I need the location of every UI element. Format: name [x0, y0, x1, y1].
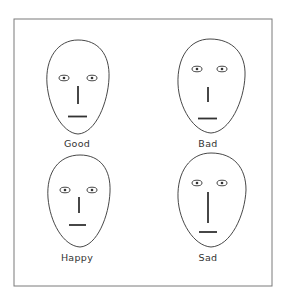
right-eye-icon [217, 180, 227, 186]
left-eye-icon [60, 187, 70, 193]
left-eye-icon [192, 66, 202, 72]
face-good: Good [47, 40, 109, 149]
face-label: Happy [61, 252, 93, 263]
figure-frame [14, 19, 272, 286]
left-eye-icon [59, 75, 69, 81]
face-label: Bad [198, 138, 217, 149]
face-label: Sad [199, 252, 218, 263]
face-sad: Sad [178, 153, 246, 263]
face-bad: Bad [178, 39, 245, 149]
right-eye-icon [217, 66, 227, 72]
face-happy: Happy [48, 155, 110, 263]
right-eye-icon [87, 187, 97, 193]
faces-figure: Good Bad Happy [0, 0, 286, 302]
right-eye-icon [87, 75, 97, 81]
left-eye-icon [192, 180, 202, 186]
face-label: Good [64, 138, 90, 149]
